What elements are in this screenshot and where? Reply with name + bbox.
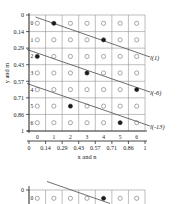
sampled-node <box>52 21 56 25</box>
series-label-l1: l(1) <box>150 54 159 62</box>
y-tick-label-2: 0.29 <box>14 45 25 51</box>
x-inner-label-4: 4 <box>102 134 105 140</box>
x-tick-label-3: 0.43 <box>73 145 84 151</box>
main-chart: 0 0.14 0.29 0.43 0.57 0.71 0.86 1 0 1 2 … <box>0 0 178 160</box>
y-tick-label-4: 0.57 <box>14 79 25 85</box>
sub-grid <box>29 190 145 204</box>
x-tick-label-5: 0.71 <box>107 145 118 151</box>
main-chart-svg: 0 0.14 0.29 0.43 0.57 0.71 0.86 1 0 1 2 … <box>0 0 178 160</box>
y-inner-label-4: 4 <box>31 87 34 93</box>
y-inner-label-3: 3 <box>31 70 34 76</box>
x-tick-label-7: 1 <box>144 145 147 151</box>
axes <box>27 13 147 141</box>
y-axis-title: y and m <box>3 63 10 84</box>
y-inner-label-1: 1 <box>31 37 34 43</box>
series-label-l-13: l(-13) <box>150 123 165 131</box>
x-inner-label-5: 5 <box>119 134 122 140</box>
x-axis-ticks <box>29 141 145 144</box>
sampled-node <box>102 38 106 42</box>
y-inner-label-6: 6 <box>31 120 34 126</box>
x-tick-label-6: 0.86 <box>123 145 134 151</box>
y-inner-label-2: 2 <box>31 53 34 59</box>
figure-container: 0 0.14 0.29 0.43 0.57 0.71 0.86 1 0 1 2 … <box>0 0 178 204</box>
sub-y-tick-label-0: 0 <box>21 187 24 193</box>
sampled-node <box>35 55 39 59</box>
x-tick-label-2: 0.29 <box>57 145 68 151</box>
x-tick-label-4: 0.57 <box>90 145 101 151</box>
x-inner-label-3: 3 <box>86 134 89 140</box>
y-inner-label-5: 5 <box>31 103 34 109</box>
y-tick-label-1: 0.14 <box>14 29 25 35</box>
secondary-chart: 0 0 <box>0 160 178 204</box>
sub-node-grid <box>35 196 139 200</box>
secondary-chart-svg: 0 0 <box>0 160 178 204</box>
y-inner-label-0: 0 <box>31 20 34 26</box>
sampled-node <box>118 121 122 125</box>
x-inner-label-1: 1 <box>52 134 55 140</box>
y-tick-label-3: 0.43 <box>14 62 25 68</box>
y-tick-label-7: 1 <box>21 128 24 134</box>
y-tick-label-5: 0.71 <box>14 95 25 101</box>
x-tick-label-0: 0 <box>28 145 31 151</box>
x-tick-label-1: 0.14 <box>40 145 51 151</box>
sampled-node <box>85 71 89 75</box>
x-axis-title: x and n <box>78 153 98 160</box>
y-tick-label-0: 0 <box>21 12 24 18</box>
x-inner-label-2: 2 <box>69 134 72 140</box>
sampled-nodes <box>35 21 138 124</box>
series-label-l-6: l(-6) <box>150 89 161 97</box>
y-axis-ticks <box>26 15 29 131</box>
x-inner-label-0: 0 <box>36 134 39 140</box>
sub-y-inner-label-0: 0 <box>31 195 34 201</box>
sampled-node <box>69 104 73 108</box>
sampled-node <box>135 88 139 92</box>
x-inner-label-6: 6 <box>135 134 138 140</box>
sub-sampled-node <box>102 196 106 200</box>
y-tick-label-6: 0.86 <box>14 112 25 118</box>
